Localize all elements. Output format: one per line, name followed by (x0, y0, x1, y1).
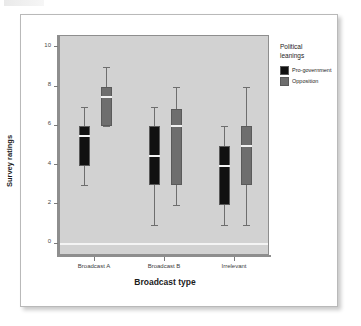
whisker-upper (176, 87, 177, 109)
legend-title: Political leanings (280, 43, 338, 61)
whisker-upper (246, 87, 247, 126)
x-tick-mark (234, 257, 235, 261)
whisker-lower (154, 185, 155, 224)
y-tick-label: 0 (48, 238, 51, 244)
x-tick-mark (94, 257, 95, 261)
whisker-cap-lower (173, 205, 180, 206)
zero-baseline (60, 243, 268, 245)
x-tick-mark (164, 257, 165, 261)
whisker-cap-lower (221, 225, 228, 226)
box-iqr (101, 87, 112, 126)
whisker-cap-upper (221, 126, 228, 127)
legend-label: Pro-government (292, 67, 331, 73)
median-line (79, 135, 90, 137)
whisker-lower (84, 166, 85, 186)
figure-card: 0246810 Survey ratings Broadcast ABroadc… (20, 14, 338, 307)
whisker-cap-lower (151, 225, 158, 226)
boxplot-pro-government-irrelevant (219, 36, 230, 256)
median-line (101, 96, 112, 98)
whisker-cap-lower (243, 225, 250, 226)
boxplot-opposition-broadcast-a (101, 36, 112, 256)
legend-title-line-1: Political (280, 43, 338, 52)
boxplot-opposition-irrelevant (241, 36, 252, 256)
legend-title-line-2: leanings (280, 52, 338, 61)
y-tick-mark (54, 125, 58, 126)
y-tick-label: 4 (48, 160, 51, 166)
box-iqr (241, 126, 252, 185)
whisker-cap-lower (103, 126, 110, 127)
x-axis-title: Broadcast type (59, 277, 271, 287)
median-line (171, 125, 182, 127)
whisker-cap-upper (81, 107, 88, 108)
x-axis: Broadcast ABroadcast BIrrelevant (59, 255, 271, 257)
y-tick-mark (54, 164, 58, 165)
whisker-cap-upper (243, 87, 250, 88)
x-tick-label: Broadcast A (78, 263, 110, 269)
y-tick-mark (54, 46, 58, 47)
y-tick-mark (54, 86, 58, 87)
whisker-cap-upper (103, 67, 110, 68)
legend-items: Pro-governmentOpposition (280, 66, 338, 86)
plot-area (59, 35, 269, 255)
boxplot-opposition-broadcast-b (171, 36, 182, 256)
whisker-lower (246, 185, 247, 224)
whisker-upper (224, 126, 225, 146)
box-iqr (79, 126, 90, 165)
box-iqr (171, 109, 182, 186)
legend-item-pro-government: Pro-government (280, 66, 338, 75)
whisker-lower (176, 185, 177, 205)
y-tick-label: 10 (44, 42, 51, 48)
legend-swatch-icon (280, 66, 289, 75)
y-axis: 0246810 (57, 35, 59, 257)
boxplot-pro-government-broadcast-b (149, 36, 160, 256)
y-tick-mark (54, 243, 58, 244)
whisker-cap-upper (151, 107, 158, 108)
legend: Political leanings Pro-governmentOpposit… (280, 43, 338, 88)
legend-label: Opposition (292, 78, 318, 84)
y-axis-title: Survey ratings (5, 134, 14, 186)
y-tick-label: 6 (48, 120, 51, 126)
whisker-lower (224, 205, 225, 225)
box-iqr (219, 146, 230, 205)
whisker-upper (154, 107, 155, 127)
legend-swatch-icon (280, 77, 289, 86)
boxplot-pro-government-broadcast-a (79, 36, 90, 256)
median-line (149, 155, 160, 157)
whisker-cap-upper (173, 87, 180, 88)
y-tick-label: 8 (48, 81, 51, 87)
x-tick-label: Irrelevant (221, 263, 246, 269)
plot-inner (60, 36, 268, 254)
whisker-cap-lower (81, 185, 88, 186)
median-line (219, 165, 230, 167)
y-tick-mark (54, 203, 58, 204)
whisker-upper (84, 107, 85, 127)
y-tick-label: 2 (48, 199, 51, 205)
whisker-upper (106, 67, 107, 87)
scan-artifact (4, 0, 44, 6)
median-line (241, 145, 252, 147)
x-tick-label: Broadcast B (148, 263, 181, 269)
legend-item-opposition: Opposition (280, 77, 338, 86)
